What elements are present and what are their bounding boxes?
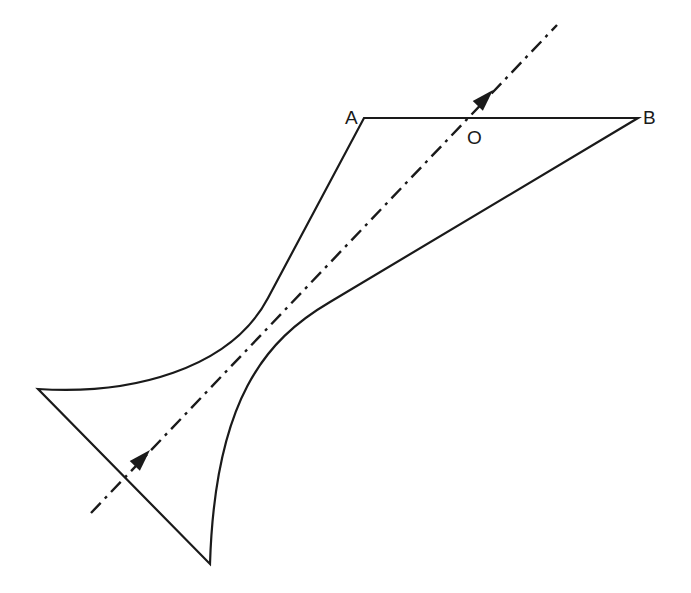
point-label-o: O [467, 127, 482, 148]
nozzle-outline [38, 118, 638, 564]
vertex-label-a: A [345, 107, 358, 128]
diagram-canvas: A B O [0, 0, 691, 593]
diagram-svg: A B O [0, 0, 691, 593]
flow-arrow-icon-upper [473, 90, 493, 111]
vertex-label-b: B [643, 107, 656, 128]
